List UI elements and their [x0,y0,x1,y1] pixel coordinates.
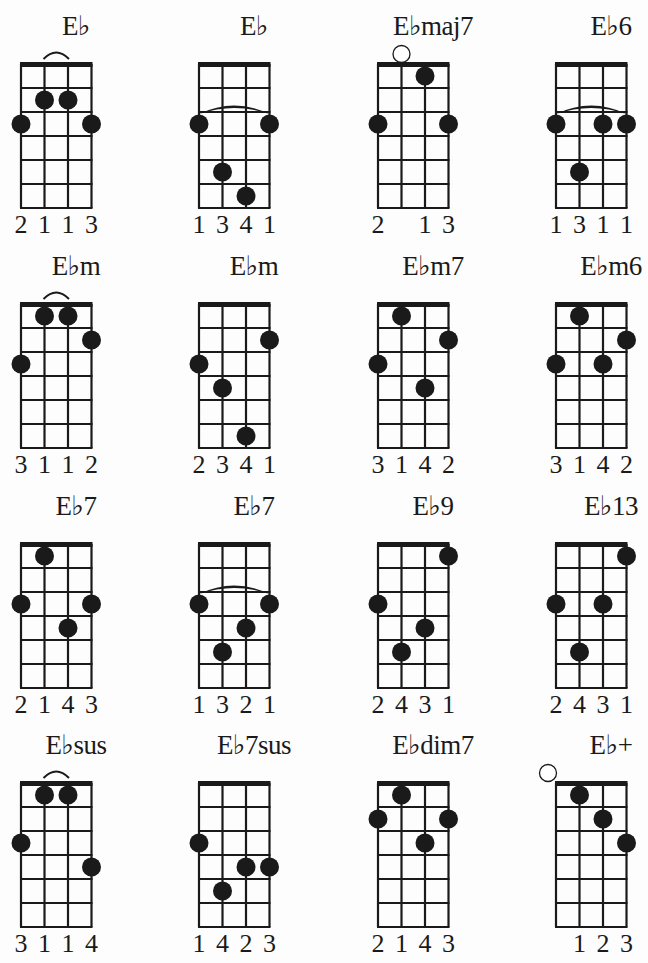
finger-dot [190,355,209,374]
chord-diagram: E♭m2341 [179,240,329,480]
finger-dot [237,858,256,877]
finger-dot [35,307,54,326]
finger-dot [617,331,636,350]
finger-dot [369,355,388,374]
finger-dot [439,331,458,350]
finger-dot [570,307,589,326]
finger-dot [594,810,613,829]
finger-number: 1 [617,210,637,240]
finger-numbers: 2341 [179,450,329,480]
finger-number: 2 [439,450,459,480]
finger-dot [547,595,566,614]
finger-number: 1 [58,450,78,480]
finger-number: 2 [368,690,388,720]
finger-dot [59,786,78,805]
fretboard-grid [358,240,508,480]
fretboard-grid [1,240,151,480]
finger-numbers: 2143 [358,929,508,959]
finger-number: 3 [570,210,590,240]
finger-number: 2 [236,690,256,720]
barre-arc [44,772,70,779]
finger-dot [12,834,31,853]
finger-number: 1 [189,929,209,959]
finger-dot [260,331,279,350]
finger-number: 4 [593,450,613,480]
finger-number: 4 [236,210,256,240]
finger-number: 4 [392,690,412,720]
chord-diagram: E♭71321 [179,480,329,720]
finger-dot [260,115,279,134]
chord-diagram: E♭61311 [536,0,648,240]
finger-dot [439,547,458,566]
finger-number: 1 [260,690,280,720]
finger-dot [12,115,31,134]
finger-dot [82,595,101,614]
nut [198,62,271,67]
finger-number: 2 [368,210,388,240]
finger-dot [213,643,232,662]
fretboard-grid [179,240,329,480]
finger-number: 3 [82,690,102,720]
finger-dot [35,547,54,566]
finger-number: 3 [546,450,566,480]
finger-numbers: 123 [536,929,648,959]
finger-dot [190,595,209,614]
chord-diagram: E♭m3112 [1,240,151,480]
finger-dot [213,379,232,398]
finger-number: 1 [260,450,280,480]
open-string-marker [393,46,410,63]
finger-number: 1 [439,690,459,720]
nut [198,542,271,547]
finger-dot [59,91,78,110]
chord-diagram: E♭maj7213 [358,0,508,240]
finger-numbers: 1321 [179,690,329,720]
finger-dot [369,115,388,134]
finger-dot [594,115,613,134]
finger-number: 2 [189,450,209,480]
finger-dot [369,810,388,829]
fretboard-grid [536,240,648,480]
finger-numbers: 3112 [1,450,151,480]
finger-numbers: 2431 [358,690,508,720]
finger-dot [237,427,256,446]
finger-number: 1 [570,929,590,959]
finger-numbers: 1423 [179,929,329,959]
finger-number: 4 [415,929,435,959]
finger-number: 3 [82,210,102,240]
finger-dot [439,810,458,829]
finger-dot [260,595,279,614]
finger-dot [416,379,435,398]
finger-number: 2 [546,690,566,720]
finger-number: 1 [392,929,412,959]
open-string-marker [540,765,557,782]
finger-dot [570,643,589,662]
chord-diagram: E♭1341 [179,0,329,240]
finger-dot [59,619,78,638]
finger-dot [594,595,613,614]
finger-dot [213,163,232,182]
finger-dot [190,115,209,134]
finger-number: 4 [236,450,256,480]
fretboard-grid [358,480,508,720]
finger-number: 3 [213,450,233,480]
finger-number: 3 [260,929,280,959]
fretboard-grid [536,0,648,240]
finger-number: 2 [617,450,637,480]
nut [377,542,450,547]
finger-numbers: 2113 [1,210,151,240]
finger-number: 3 [593,690,613,720]
finger-number: 1 [58,210,78,240]
finger-number: 1 [189,210,209,240]
finger-dot [617,834,636,853]
chord-diagram: E♭7sus1423 [179,719,329,959]
finger-numbers: 3114 [1,929,151,959]
chord-diagram: E♭sus3114 [1,719,151,959]
fretboard-grid [179,0,329,240]
nut [377,302,450,307]
finger-number: 1 [189,690,209,720]
nut [555,302,628,307]
fretboard-grid [1,719,151,959]
finger-dot [237,187,256,206]
finger-number: 1 [593,210,613,240]
finger-numbers: 213 [358,210,508,240]
